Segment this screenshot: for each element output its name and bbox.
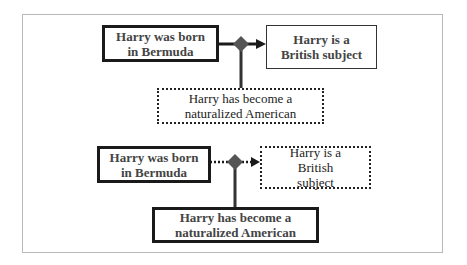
bottom-rebuttal-text: Harry has become a naturalized American: [171, 210, 300, 240]
top-rebuttal-text: Harry has become a naturalized American: [163, 91, 318, 121]
top-conclusion-text: Harry is a British subject: [275, 32, 368, 62]
top-rebuttal-box: Harry has become a naturalized American: [157, 88, 324, 124]
top-premise-text: Harry was born in Bermuda: [111, 29, 210, 59]
bottom-premise-box: Harry was born in Bermuda: [97, 146, 211, 183]
bottom-rebuttal-box: Harry has become a naturalized American: [152, 207, 319, 243]
bottom-conclusion-box: Harry is a British subject: [260, 146, 371, 189]
top-premise-box: Harry was born in Bermuda: [102, 25, 219, 62]
bottom-premise-text: Harry was born in Bermuda: [106, 150, 202, 180]
bottom-conclusion-text: Harry is a British subject: [278, 145, 353, 190]
top-conclusion-box: Harry is a British subject: [266, 25, 377, 69]
